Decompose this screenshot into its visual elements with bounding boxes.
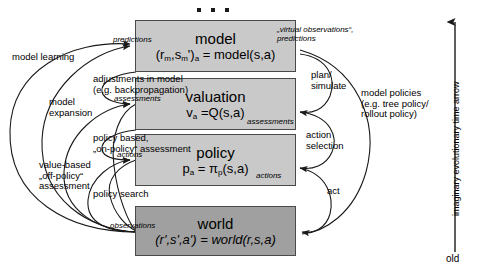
- box-model-formula: (rm,sm')a = model(s,a): [156, 48, 276, 62]
- box-valuation-title: valuation: [185, 89, 245, 105]
- box-world-title: world: [198, 216, 234, 232]
- time-arrow-old-label: old: [446, 253, 459, 264]
- label-policy-search: policy search: [93, 189, 148, 200]
- box-model-title: model: [195, 31, 236, 47]
- label-plan-simulate: plan/ simulate: [311, 70, 346, 91]
- arrow-act: [300, 168, 331, 232]
- label-act: act: [327, 186, 340, 197]
- label-virtual-observations: „virtual observations“, predictions: [277, 26, 353, 44]
- box-policy-title: policy: [196, 145, 234, 161]
- label-adjustments-in-model: adjustments in model (e.g. backpropagati…: [93, 74, 188, 95]
- label-assessments-right: assessments: [247, 118, 294, 127]
- diagram-canvas: model (rm,sm')a = model(s,a) valuation v…: [0, 0, 486, 267]
- box-model: model (rm,sm')a = model(s,a): [135, 20, 296, 72]
- label-model-expansion: model expansion: [49, 97, 92, 118]
- label-model-learning: model learning: [12, 52, 74, 63]
- label-value-based: value-based „off-policy“ assessment: [39, 160, 91, 192]
- label-action-selection: action selection: [306, 130, 344, 151]
- box-world-formula: (r',s',a') = world(r,s,a): [155, 233, 276, 247]
- label-observations: observations: [110, 222, 155, 231]
- box-valuation-formula: va =Q(s,a): [186, 106, 244, 120]
- label-actions-right: actions: [256, 172, 281, 181]
- label-predictions: predictions: [113, 36, 152, 45]
- box-policy-formula: pa = πp(s,a): [183, 162, 249, 176]
- label-model-policies: model policies (e.g. tree policy/ rollou…: [361, 88, 429, 120]
- label-actions: actions: [117, 151, 142, 160]
- label-assessments: assessments: [114, 95, 161, 104]
- time-arrow-label: imaginary evolutionary time arrow: [451, 81, 461, 216]
- box-world: world (r',s',a') = world(r,s,a): [135, 206, 296, 256]
